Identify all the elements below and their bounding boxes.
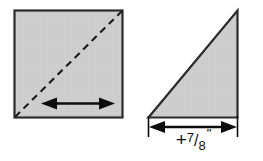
fraction-seven-eighths: 7/8 xyxy=(187,133,206,149)
inch-mark: " xyxy=(207,126,212,141)
square-figure xyxy=(15,11,123,118)
fraction-denominator: 8 xyxy=(198,138,205,153)
triangle-shape xyxy=(149,11,238,118)
base-dimension-label: +7/8" xyxy=(148,130,238,149)
triangle-figure xyxy=(149,11,238,138)
plus-sign: + xyxy=(176,129,187,150)
fraction-numerator: 7 xyxy=(187,130,194,145)
